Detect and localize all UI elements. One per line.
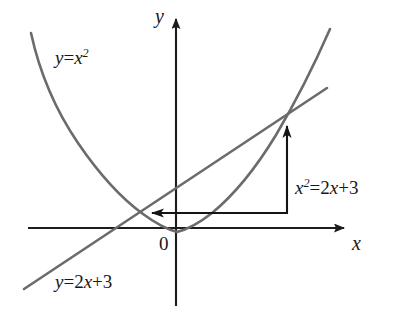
y-axis-label: y bbox=[155, 6, 164, 26]
solution-equation-label: x2=2x+3 bbox=[295, 178, 358, 197]
equation-constant: 3 bbox=[349, 177, 359, 198]
parabola-equation-label: y=x2 bbox=[55, 48, 89, 67]
x-axis-label: x bbox=[352, 233, 361, 253]
equation-plus: + bbox=[338, 177, 349, 198]
line-coefficient: 2 bbox=[74, 271, 84, 292]
parabola-exponent: 2 bbox=[83, 46, 89, 60]
origin-label: 0 bbox=[159, 234, 169, 253]
line-constant: 3 bbox=[103, 271, 113, 292]
line-equals: = bbox=[63, 271, 74, 292]
parabola-equals: = bbox=[63, 47, 74, 68]
line-plus: + bbox=[92, 271, 103, 292]
equation-equals: = bbox=[310, 177, 321, 198]
line-equation-label: y=2x+3 bbox=[55, 272, 112, 291]
parabola-base: x bbox=[74, 47, 82, 68]
line-variable: x bbox=[84, 271, 92, 292]
equation-variable: x bbox=[330, 177, 338, 198]
math-figure: y=x2 y=2x+3 x2=2x+3 x y 0 bbox=[0, 0, 414, 319]
equation-coefficient: 2 bbox=[320, 177, 330, 198]
